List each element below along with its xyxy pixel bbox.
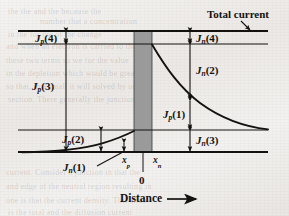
total-current-annotation: Total current: [207, 8, 269, 20]
label-jn3: Jn(3): [196, 135, 219, 146]
origin-label: 0: [139, 174, 145, 186]
label-jp1: Jp(1): [163, 109, 185, 120]
x-p-tick-label: xp: [122, 155, 130, 167]
depletion-region-band: [134, 31, 152, 152]
total-current-leader: [241, 21, 250, 30]
jn1-leader-line: [97, 153, 122, 167]
x-n-tick-label: xn: [153, 155, 161, 167]
label-jp3: Jp(3): [32, 81, 54, 92]
label-jn1: Jn(1): [63, 162, 86, 173]
label-jn2: Jn(2): [196, 65, 219, 76]
label-jp4: Jp(4): [35, 33, 57, 44]
figure-root: the the and the because thenumber that a…: [0, 0, 289, 216]
label-jp2: Jp(2): [62, 134, 84, 145]
label-jn4: Jn(4): [196, 33, 219, 44]
distance-axis-label: Distance: [120, 192, 162, 204]
